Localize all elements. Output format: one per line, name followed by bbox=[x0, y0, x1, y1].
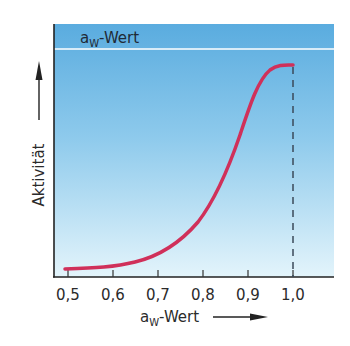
x-tick-label: 1,0 bbox=[281, 286, 305, 304]
x-tick-label: 0,8 bbox=[191, 286, 215, 304]
y-axis-arrow-icon bbox=[36, 61, 43, 120]
x-tick-labels: 0,5 0,6 0,7 0,8 0,9 1,0 bbox=[56, 286, 305, 304]
x-axis-label: aW-Wert bbox=[140, 308, 199, 328]
header-band-label: aW-Wert bbox=[80, 29, 139, 49]
x-tick-label: 0,5 bbox=[56, 286, 80, 304]
x-tick-label: 0,9 bbox=[236, 286, 260, 304]
y-axis-label: Aktivität bbox=[30, 143, 48, 206]
x-tick-label: 0,6 bbox=[101, 286, 125, 304]
chart: aW-Wert 0,5 0,6 0,7 0,8 0,9 1,0 aW-Wert … bbox=[0, 0, 350, 346]
x-tick-label: 0,7 bbox=[146, 286, 170, 304]
x-axis-arrow-icon bbox=[213, 314, 268, 321]
plot-background bbox=[54, 24, 334, 277]
